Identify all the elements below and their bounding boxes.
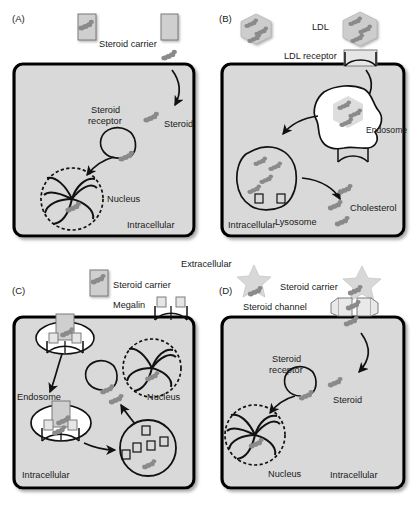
panel-a-carrier-label: Steroid carrier [99, 39, 157, 49]
panel-c-id: (C) [12, 285, 25, 296]
panel-c: (C) Steroid carrier Megalin [12, 270, 194, 488]
panel-b-id: (B) [219, 13, 232, 24]
panel-d-nucleus-label: Nucleus [268, 469, 302, 479]
panel-c-endosome-label: Endosome [17, 392, 61, 402]
panel-a-receptor-label-2: receptor [88, 116, 122, 126]
panel-a: (A) Steroid carrier Steroid Steroid rece… [12, 13, 194, 236]
panel-a-id: (A) [12, 13, 25, 24]
cell-body-d [222, 317, 404, 488]
extracellular-label: Extracellular [181, 259, 232, 269]
ldl-receptor-coated-pit-b [344, 50, 377, 66]
figure-canvas: (A) Steroid carrier Steroid Steroid rece… [0, 0, 417, 513]
panel-d-receptor-label-1: Steroid [272, 354, 301, 364]
panel-a-steroid-label: Steroid [164, 119, 193, 129]
panel-d-carrier-label: Steroid carrier [280, 282, 338, 292]
panel-b-ldl-receptor-label: LDL receptor [284, 51, 337, 61]
steroid-carrier-star-d-2 [343, 266, 381, 301]
panel-b-intracellular-label: Intracellular [228, 220, 276, 230]
panel-b: (B) LDL LDL receptor [219, 12, 407, 236]
panel-b-ldl-label: LDL [312, 22, 329, 32]
panel-a-intracellular-label: Intracellular [127, 220, 175, 230]
panel-b-endosome-label: Endosome [366, 125, 407, 135]
panel-c-nucleus-label: Nucleus [147, 392, 181, 402]
panel-d-channel-label: Steroid channel [243, 302, 307, 312]
steroid-molecule-free-a [161, 50, 177, 61]
panel-d-id: (D) [219, 285, 232, 296]
panel-c-megalin-label: Megalin [113, 300, 145, 310]
steroid-carrier-empty-a [161, 14, 178, 40]
panel-b-lysosome-label: Lysosome [275, 217, 317, 227]
panel-c-intracellular-label: Intracellular [22, 470, 70, 480]
cell-body-a [14, 64, 194, 236]
panel-a-receptor-label-1: Steroid [91, 105, 120, 115]
panel-d-intracellular-label: Intracellular [330, 470, 378, 480]
panel-c-carrier-label: Steroid carrier [113, 280, 171, 290]
panel-d-steroid-label: Steroid [333, 395, 362, 405]
panel-b-cholesterol-label: Cholesterol [350, 203, 396, 213]
panel-d: (D) Steroid carrier Steroid channel Ster… [219, 265, 404, 488]
megalin-receptor-c [155, 297, 187, 320]
panel-a-nucleus-label: Nucleus [107, 194, 141, 204]
